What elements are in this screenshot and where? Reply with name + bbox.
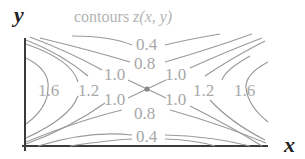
saddle-contour-diagram: y x contours z(x, y) (0, 0, 305, 159)
level-label-left-1-2: 1.2 (78, 81, 99, 100)
title-prefix: contours (74, 8, 133, 25)
contour-line (72, 36, 132, 45)
level-label-upper-right-1-0: 1.0 (165, 65, 186, 84)
level-label-top-0-4: 0.4 (136, 35, 158, 54)
contour-line (205, 41, 265, 76)
y-axis-label: y (11, 2, 24, 27)
level-label-bottom-0-4: 0.4 (136, 127, 158, 146)
level-label-left-1-6: 1.6 (38, 81, 59, 100)
level-label-right-1-6: 1.6 (234, 81, 255, 100)
contour-line (190, 106, 262, 146)
contour-line (165, 34, 220, 45)
level-label-lower-right-1-0: 1.0 (165, 90, 186, 109)
contour-line (165, 139, 215, 146)
level-label-top-0-8: 0.8 (134, 54, 155, 73)
contour-line (222, 56, 250, 80)
contour-line (165, 34, 252, 62)
diagram-title: contours z(x, y) (74, 8, 172, 26)
level-label-bottom-0-8: 0.8 (134, 104, 155, 123)
contour-line (40, 38, 130, 62)
saddle-point-marker (144, 86, 149, 91)
level-label-lower-left-1-0: 1.0 (104, 90, 125, 109)
level-label-right-1-2: 1.2 (193, 81, 214, 100)
contour-line (70, 139, 132, 146)
level-label-upper-left-1-0: 1.0 (104, 65, 125, 84)
x-axis-label: x (283, 132, 295, 157)
title-function: z(x, y) (132, 8, 172, 26)
contour-line (170, 110, 266, 143)
